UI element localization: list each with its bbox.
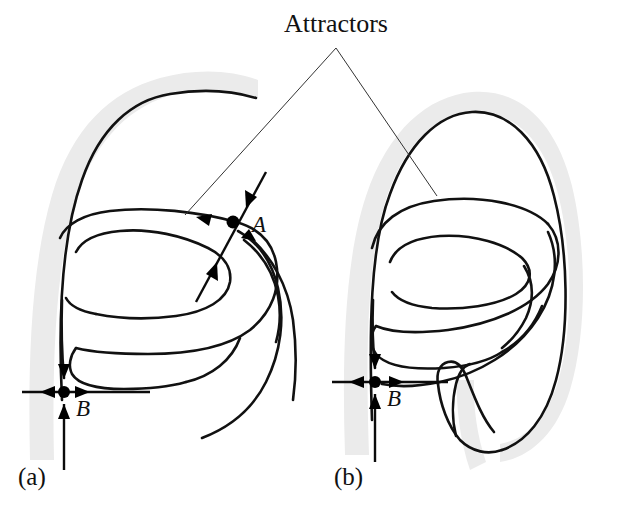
attractors-title: Attractors [284,9,388,38]
panel-label-a: (a) [18,463,46,491]
panel-a-manifold [60,209,281,438]
arrow-up-into-b-a [58,404,70,419]
panel-label-b: (b) [334,463,363,491]
arrow-manifold-left-a [196,214,212,226]
point-label-a: A [250,212,267,237]
figure-root: Attractors A B B (a) (b) [0,0,631,511]
attractor-diagram: Attractors A B B (a) (b) [0,0,631,511]
panel-b-manifold [372,199,559,386]
fixed-point-dot-a [227,216,240,229]
fixed-point-dot-b-b [369,376,381,388]
point-label-b-panel-b: B [387,386,401,411]
fixed-point-dot-b-a [58,386,70,398]
point-label-b-panel-a: B [76,396,90,421]
panel-b-shaded-band [344,92,583,470]
